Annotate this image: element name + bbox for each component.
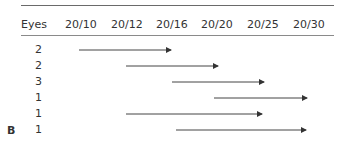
acuity-change-arrows bbox=[0, 0, 344, 158]
